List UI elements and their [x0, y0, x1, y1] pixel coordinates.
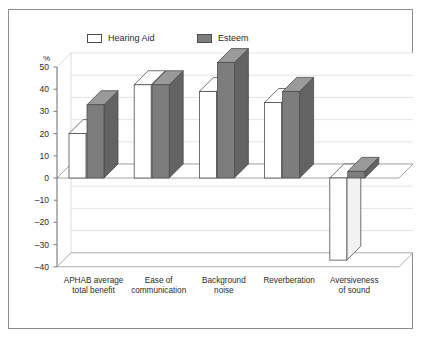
chart-bar-front	[330, 178, 347, 260]
chart-bar	[87, 91, 118, 178]
chart-bar-front	[87, 105, 104, 178]
legend-label: Hearing Aid	[108, 33, 155, 43]
y-axis-tick-label: 0	[23, 173, 49, 183]
x-axis-category-line: noise	[185, 286, 263, 297]
chart-bar	[217, 49, 248, 178]
chart-bar-front	[348, 171, 365, 178]
chart-bar-side	[347, 164, 361, 260]
chart-bar-front	[152, 85, 169, 178]
chart-bottom-plane	[57, 253, 413, 267]
x-axis-category-line: Aversiveness	[315, 276, 393, 287]
y-axis-tick-label: –40	[23, 262, 49, 272]
chart-bar-front	[69, 134, 86, 178]
legend-swatch-hearing-aid	[87, 34, 102, 43]
chart-bar	[283, 77, 314, 178]
y-axis-tick-label: 30	[23, 106, 49, 116]
y-axis-tick-label: 20	[23, 129, 49, 139]
chart-bar-front	[283, 91, 300, 178]
y-axis-tick-label: 40	[23, 84, 49, 94]
chart-figure: 50403020100–10–20–30–40%APHAB averagetot…	[8, 9, 413, 329]
chart-bar	[330, 164, 361, 260]
y-axis-tick-label: 10	[23, 151, 49, 161]
y-axis-unit-label: %	[43, 54, 50, 64]
chart-bar	[152, 71, 183, 178]
chart-bar-side	[234, 49, 248, 178]
y-axis-tick-label: –30	[23, 240, 49, 250]
chart-bar-front	[199, 91, 216, 178]
legend-label: Esteem	[218, 33, 249, 43]
y-axis-tick-label: –10	[23, 195, 49, 205]
x-axis-category-line: of sound	[315, 286, 393, 297]
chart-bar-front	[217, 63, 234, 178]
chart-bar-front	[134, 85, 151, 178]
chart-bar-front	[265, 103, 282, 178]
y-axis-tick-label: –20	[23, 217, 49, 227]
chart-bar-side	[169, 71, 183, 178]
x-axis-category-label: Aversivenessof sound	[315, 276, 393, 297]
chart-bar-side	[300, 77, 314, 178]
legend-swatch-esteem	[197, 34, 212, 43]
chart-bar-side	[104, 91, 118, 178]
